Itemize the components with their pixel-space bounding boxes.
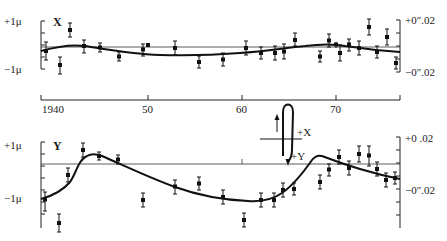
- y-left-top-label: +1μ: [4, 140, 22, 151]
- x-panel: [41, 19, 400, 74]
- x-left-axis: [41, 21, 45, 69]
- y-right-axis: [396, 137, 400, 228]
- year-1940-label: 1940: [42, 104, 64, 115]
- polar-motion-chart: [0, 0, 447, 241]
- inset-plus-x-label: +X: [297, 127, 311, 138]
- y-panel-title: Y: [53, 139, 62, 154]
- x-left-bottom-label: −1μ: [4, 64, 22, 75]
- x-right-top-label: +0″.02: [405, 15, 435, 26]
- time-axis: [41, 95, 400, 100]
- inset-plus-y-label: +Y: [291, 151, 305, 162]
- y-panel: [41, 137, 400, 232]
- y-left-axis: [41, 142, 45, 228]
- y-left-bottom-label: −1μ: [4, 193, 22, 204]
- plus-y-arrow-icon: [286, 159, 291, 166]
- year-70-label: 70: [330, 104, 341, 115]
- year-50-label: 50: [142, 104, 153, 115]
- x-panel-title: X: [53, 15, 62, 30]
- y-right-bottom-label: −0″.02: [405, 185, 435, 196]
- y-fitted-curve: [41, 154, 400, 201]
- x-fitted-curve: [41, 45, 400, 56]
- x-right-bottom-label: −0″.02: [405, 67, 435, 78]
- year-60-label: 60: [236, 104, 247, 115]
- x-left-top-label: +1μ: [4, 16, 22, 27]
- y-data-points: [43, 143, 397, 232]
- y-right-top-label: +0 .02: [405, 133, 433, 144]
